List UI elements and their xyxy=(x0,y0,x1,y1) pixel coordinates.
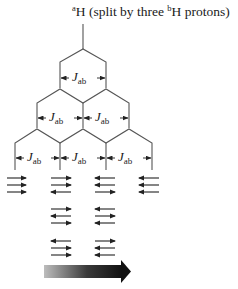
coupling-label-l3-1: Jab xyxy=(27,150,41,166)
spin-state-arrows xyxy=(7,178,159,255)
splitting-tree-lines xyxy=(15,24,152,170)
coupling-label-l3-3: Jab xyxy=(118,150,132,166)
coupling-label-l2-right: Jab xyxy=(95,110,109,126)
coupling-label-l1: Jab xyxy=(72,70,86,86)
coupling-label-l3-2: Jab xyxy=(72,150,86,166)
coupling-label-l2-left: Jab xyxy=(49,110,63,126)
gradient-arrow xyxy=(44,260,131,283)
splitting-tree-diagram xyxy=(0,0,238,289)
